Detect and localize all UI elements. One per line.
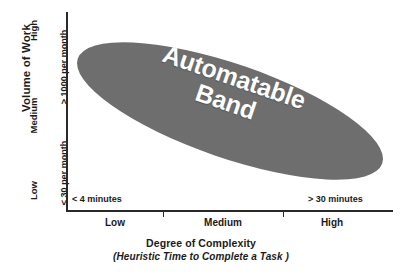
x-axis-tick-mark — [163, 211, 164, 217]
y-axis-label-high: High — [28, 0, 39, 63]
x-axis-line — [66, 210, 393, 212]
automatable-band-chart: Volume of Work High Medium Low > 1000 pe… — [0, 0, 402, 279]
x-axis-range-label-left: < 4 minutes — [72, 194, 122, 204]
x-axis-caption: Degree of Complexity (Heuristic Time to … — [0, 237, 402, 262]
y-axis-label-medium: Medium — [28, 84, 39, 148]
x-axis-tick-mark — [283, 211, 284, 217]
x-axis-label-high: High — [287, 217, 377, 228]
plot-area: Automatable Band — [67, 12, 393, 210]
x-axis-title: Degree of Complexity — [0, 237, 402, 249]
x-axis-range-label-right: > 30 minutes — [308, 194, 363, 204]
x-axis-label-medium: Medium — [178, 217, 268, 228]
y-axis-label-low: Low — [28, 159, 39, 223]
x-axis-subtitle: (Heuristic Time to Complete a Task ) — [0, 251, 402, 262]
x-axis-label-low: Low — [70, 217, 160, 228]
